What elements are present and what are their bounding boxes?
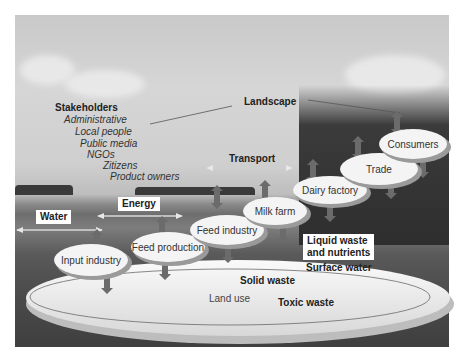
landscape-label: Landscape: [244, 96, 296, 107]
stakeholders-title: Stakeholders: [55, 102, 118, 113]
liquid-waste-line1: Liquid waste: [307, 235, 370, 247]
diagram-overlay: [0, 0, 464, 359]
toxic-waste-label: Toxic waste: [278, 297, 334, 308]
land-use-label: Land use: [209, 293, 250, 304]
node-milk-farm: Milk farm: [255, 206, 296, 217]
water-label: Water: [36, 210, 71, 224]
transport-label: Transport: [229, 153, 275, 164]
liquid-waste-label: Liquid waste and nutrients: [303, 234, 374, 260]
stakeholder-item: Zitizens: [103, 160, 137, 171]
energy-label: Energy: [118, 197, 160, 211]
connector-line: [308, 100, 400, 113]
stakeholder-item: Local people: [75, 126, 132, 137]
liquid-waste-line2: and nutrients: [307, 247, 370, 259]
node-consumers: Consumers: [387, 139, 438, 150]
node-trade: Trade: [366, 164, 392, 175]
stakeholder-item: Public media: [80, 138, 137, 149]
solid-waste-label: Solid waste: [240, 275, 295, 286]
node-feed-production: Feed production: [132, 242, 204, 253]
stakeholder-item: Product owners: [110, 171, 179, 182]
surface-water-label: Surface water: [306, 262, 372, 273]
node-input-industry: Input industry: [61, 255, 121, 266]
stakeholder-item: NGOs: [87, 149, 115, 160]
connector-line: [150, 106, 232, 124]
node-dairy-factory: Dairy factory: [302, 185, 358, 196]
node-feed-industry: Feed industry: [197, 225, 258, 236]
stakeholder-item: Administrative: [64, 114, 127, 125]
